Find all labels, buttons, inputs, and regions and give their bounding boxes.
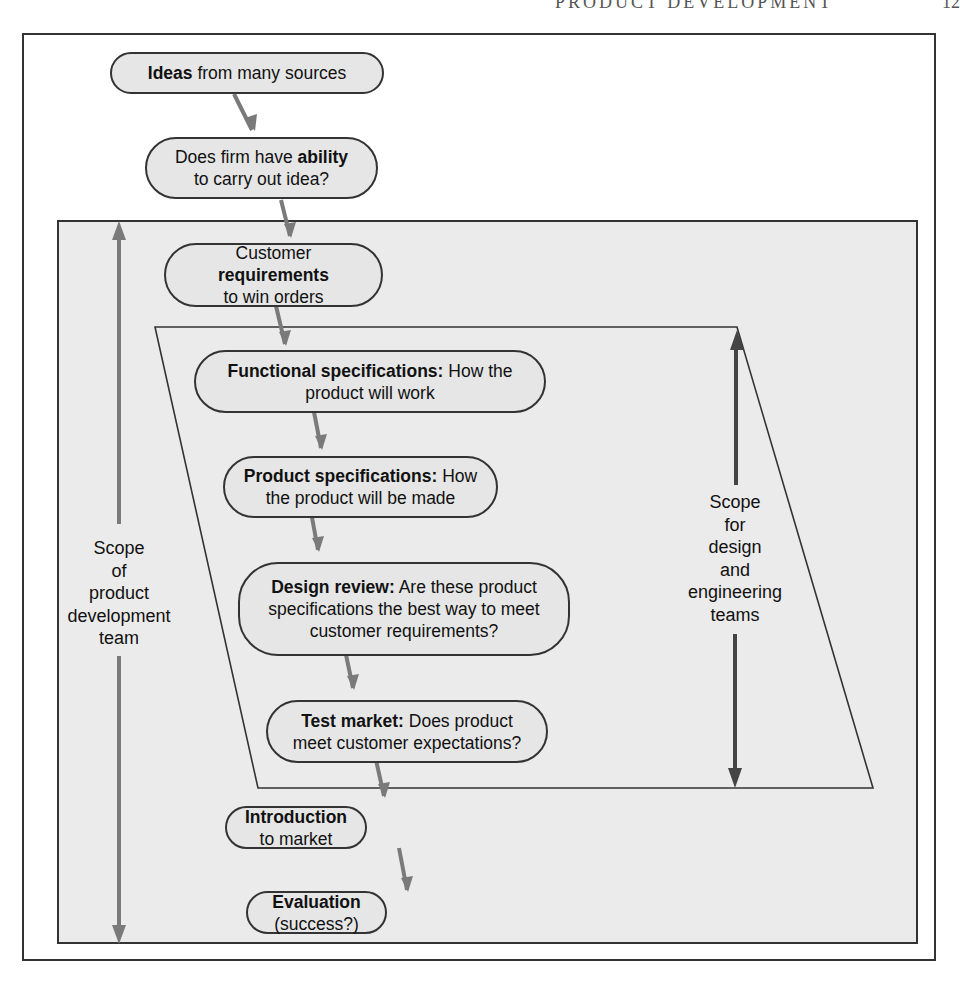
node-ideas-text: from many sources (193, 63, 347, 83)
scope-line: for (680, 514, 790, 537)
node-requirements-text: Customer (236, 243, 312, 263)
node-ideas-bold: Ideas (148, 63, 193, 83)
node-introduction: Introduction to market (225, 806, 367, 849)
scope-line: Scope (680, 491, 790, 514)
scope-line: development (64, 605, 174, 628)
node-test-market: Test market: Does product meet customer … (266, 700, 548, 763)
node-evaluation: Evaluation (success?) (246, 891, 387, 934)
scope-line: of (64, 560, 174, 583)
scope-line: teams (680, 604, 790, 627)
node-design-review-bold: Design review: (271, 577, 395, 597)
node-design-review: Design review: Are these product specifi… (238, 562, 570, 656)
node-ability-text: Does firm have (175, 147, 298, 167)
node-introduction-text: to market (260, 829, 333, 849)
scope-line: and (680, 559, 790, 582)
scope-line: team (64, 627, 174, 650)
node-requirements: Customer requirementsto win orders (164, 243, 383, 307)
node-requirements-text-2: to win orders (223, 287, 323, 307)
node-test-market-bold: Test market: (301, 711, 404, 731)
node-evaluation-text: (success?) (274, 914, 359, 934)
node-ability-text-2: to carry out idea? (194, 169, 329, 189)
node-ability: Does firm have abilityto carry out idea? (145, 137, 378, 199)
node-product-specifications: Product specifications: How the product … (223, 456, 498, 518)
node-functional-bold: Functional specifications: (228, 361, 444, 381)
scope-product-team-label: Scope of product development team (64, 537, 174, 650)
node-ideas: Ideas from many sources (110, 52, 384, 94)
node-product-specs-bold: Product specifications: (244, 466, 438, 486)
node-introduction-bold: Introduction (245, 807, 347, 827)
node-ability-bold: ability (297, 147, 348, 167)
scope-line: Scope (64, 537, 174, 560)
scope-line: engineering (680, 581, 790, 604)
scope-design-team-label: Scope for design and engineering teams (680, 491, 790, 626)
node-evaluation-bold: Evaluation (272, 892, 361, 912)
node-requirements-bold: requirements (218, 265, 329, 285)
node-functional-specifications: Functional specifications: How the produ… (194, 350, 546, 413)
scope-line: design (680, 536, 790, 559)
scope-line: product (64, 582, 174, 605)
